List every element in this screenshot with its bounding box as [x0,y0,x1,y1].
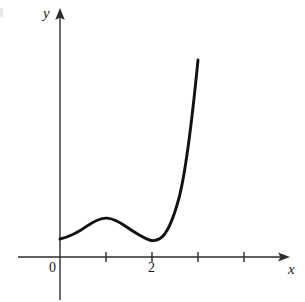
y-axis-label: y [43,6,50,21]
x-axis-label: x [288,262,295,277]
function-curve [60,60,198,241]
function-graph-figure: y x 0 2 [0,0,305,302]
x-tick-label-2: 2 [148,261,155,275]
origin-label: 0 [49,261,56,275]
plot-canvas [0,0,305,302]
